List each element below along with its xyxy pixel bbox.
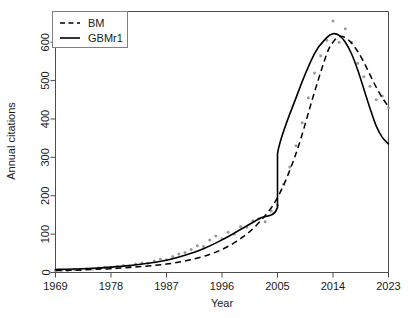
scatter-point <box>301 121 304 124</box>
scatter-point <box>332 20 335 23</box>
y-axis-title: Annual citations <box>5 102 17 180</box>
scatter-point <box>356 62 359 65</box>
y-tick-label: 400 <box>40 110 52 128</box>
x-tick-label: 2005 <box>265 280 289 292</box>
scatter-point <box>184 251 187 254</box>
scatter-point <box>307 96 310 99</box>
scatter-point <box>264 220 267 223</box>
scatter-point <box>375 98 378 101</box>
scatter-point <box>239 225 242 228</box>
scatter-point <box>338 41 341 44</box>
scatter-point <box>177 253 180 256</box>
x-tick-label: 2023 <box>376 280 400 292</box>
scatter-point <box>387 106 390 109</box>
y-tick-label: 100 <box>40 225 52 243</box>
scatter-point <box>196 244 199 247</box>
scatter-point <box>171 255 174 258</box>
chart-canvas: 1969197819871996200520142023 01002003004… <box>0 0 410 318</box>
scatter-point <box>214 235 217 238</box>
x-axis-title: Year <box>211 297 234 309</box>
scatter-point <box>319 54 322 57</box>
y-tick-label: 200 <box>40 187 52 205</box>
y-tick-label: 300 <box>40 148 52 166</box>
y-tick-label: 500 <box>40 71 52 89</box>
scatter-point <box>159 258 162 261</box>
x-tick-label: 1987 <box>154 280 178 292</box>
scatter-point <box>190 248 193 251</box>
x-tick-label: 2014 <box>321 280 345 292</box>
chart-legend: BM GBMr1 <box>53 12 128 48</box>
legend-label-gbmr1: GBMr1 <box>88 32 123 44</box>
y-tick-label: 600 <box>40 33 52 51</box>
x-tick-label: 1969 <box>43 280 67 292</box>
x-tick-label: 1996 <box>210 280 234 292</box>
scatter-point <box>227 231 230 234</box>
y-tick-label: 0 <box>40 269 52 275</box>
x-tick-label: 1978 <box>99 280 123 292</box>
scatter-point <box>295 144 298 147</box>
legend-label-bm: BM <box>88 17 105 29</box>
scatter-point <box>208 238 211 241</box>
citation-chart-figure: 1969197819871996200520142023 01002003004… <box>0 0 410 318</box>
scatter-point <box>369 85 372 88</box>
scatter-point <box>344 27 347 30</box>
scatter-point <box>313 71 316 74</box>
scatter-point <box>362 75 365 78</box>
